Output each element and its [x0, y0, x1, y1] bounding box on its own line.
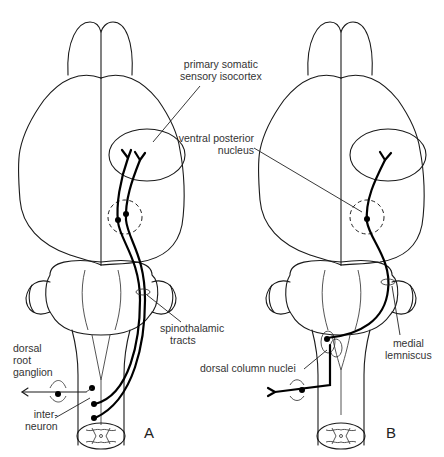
label-line: inter-: [25, 408, 58, 420]
label-dorsal-column-nuclei: dorsal column nuclei: [200, 362, 296, 374]
label-line: ventral posterior: [168, 132, 254, 144]
label-line: nucleus: [184, 144, 254, 156]
label-line: tracts: [160, 334, 224, 346]
spinothalamic-tract-a: [89, 150, 150, 421]
label-line: dorsal: [13, 342, 53, 354]
label-primary-somatic-sensory-isocortex: primary somatic sensory isocortex: [180, 58, 262, 82]
label-ventral-posterior-nucleus: ventral posterior nucleus: [184, 132, 254, 156]
panel-label-a: A: [144, 424, 154, 441]
label-line: lemniscus: [385, 349, 432, 361]
label-medial-lemniscus: medial lemniscus: [385, 337, 432, 361]
label-line: primary somatic: [180, 58, 262, 70]
label-line: root: [13, 354, 53, 366]
panel-label-b: B: [386, 424, 396, 441]
label-line: sensory isocortex: [180, 70, 262, 82]
label-line: neuron: [25, 420, 58, 432]
label-line: spinothalamic: [160, 322, 224, 334]
dorsal-root-ganglion-a: [22, 381, 92, 403]
brain-outline-b: [259, 22, 427, 449]
label-dorsal-root-ganglion: dorsal root ganglion: [13, 342, 53, 378]
label-line: medial: [385, 337, 432, 349]
brain-outline-a: [19, 22, 186, 449]
label-interneuron: inter- neuron: [25, 408, 58, 432]
label-spinothalamic-tracts: spinothalamic tracts: [160, 322, 224, 346]
label-line: ganglion: [13, 366, 53, 378]
